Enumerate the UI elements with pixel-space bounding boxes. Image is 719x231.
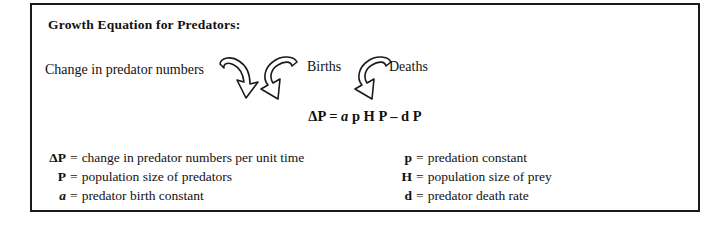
equation-term-p-cap: P	[379, 108, 387, 124]
legend-row: a = predator birth constant	[40, 188, 304, 207]
legend-symbol: p	[392, 150, 416, 166]
legend-description: population size of prey	[428, 169, 552, 185]
flow-diagram-row: Change in predator numbers Births Deaths	[32, 55, 698, 105]
change-in-predator-numbers-label: Change in predator numbers	[45, 62, 204, 78]
legend-description: predation constant	[428, 150, 527, 166]
equation-equals: =	[329, 108, 337, 124]
births-label: Births	[307, 59, 341, 75]
legend-equals: =	[416, 188, 428, 204]
equation-term-p: p	[352, 108, 360, 124]
legend-description: population size of predators	[82, 169, 232, 185]
equation-term-a: a	[341, 108, 348, 124]
legend-equals: =	[416, 150, 428, 166]
legend-row: P = population size of predators	[40, 169, 304, 188]
variable-legend: ΔP = change in predator numbers per unit…	[32, 150, 698, 212]
growth-equation-figure-box: Growth Equation for Predators: Change in…	[30, 3, 700, 212]
equation-term-d: d	[401, 108, 409, 124]
equation-term-p-cap-2: P	[413, 108, 422, 124]
legend-row: ΔP = change in predator numbers per unit…	[40, 150, 304, 169]
legend-symbol: ΔP	[40, 150, 70, 166]
legend-column-right: p = predation constant H = population si…	[392, 150, 552, 207]
legend-row: d = predator death rate	[392, 188, 552, 207]
legend-symbol: P	[40, 169, 70, 185]
legend-symbol: d	[392, 188, 416, 204]
legend-symbol: a	[40, 188, 70, 204]
legend-row: p = predation constant	[392, 150, 552, 169]
legend-equals: =	[70, 188, 82, 204]
equation-delta-p: ΔP	[308, 108, 325, 124]
legend-symbol: H	[392, 169, 416, 185]
growth-equation: ΔP = a p H P – d P	[32, 108, 698, 125]
figure-title: Growth Equation for Predators:	[48, 17, 240, 33]
legend-equals: =	[70, 169, 82, 185]
legend-description: predator death rate	[428, 188, 529, 204]
legend-description: change in predator numbers per unit time	[82, 150, 305, 166]
equation-term-h: H	[364, 108, 375, 124]
legend-row: H = population size of prey	[392, 169, 552, 188]
legend-column-left: ΔP = change in predator numbers per unit…	[40, 150, 304, 207]
hook-arrow-down-icon	[256, 55, 302, 103]
legend-equals: =	[70, 150, 82, 166]
equation-minus: –	[390, 108, 397, 124]
deaths-label: Deaths	[389, 59, 428, 75]
legend-equals: =	[416, 169, 428, 185]
legend-description: predator birth constant	[82, 188, 204, 204]
